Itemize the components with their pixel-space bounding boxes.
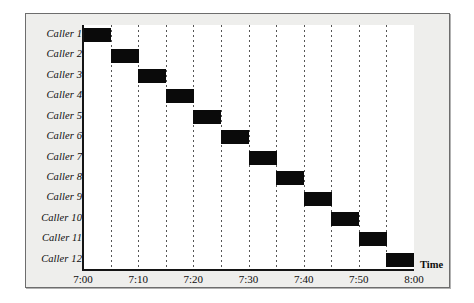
gantt-bar xyxy=(304,192,332,206)
y-axis-label: Caller 4 xyxy=(26,89,82,101)
x-tick-label: 7:30 xyxy=(239,273,259,286)
y-axis-label: Caller 1 xyxy=(26,28,82,40)
y-axis-label: Caller 10 xyxy=(26,212,82,224)
gantt-bar xyxy=(221,130,249,144)
x-tick-label: 7:10 xyxy=(128,273,148,286)
gantt-bar xyxy=(331,212,359,226)
gantt-bar xyxy=(166,89,194,103)
gridline xyxy=(221,25,222,270)
gridline xyxy=(166,25,167,270)
x-tick-label: 7:50 xyxy=(349,273,369,286)
gridline xyxy=(331,25,332,270)
chart-panel: Caller 1Caller 2Caller 3Caller 4Caller 5… xyxy=(25,13,450,288)
gridline xyxy=(249,25,250,270)
x-tick-label: 7:20 xyxy=(184,273,204,286)
y-axis-labels: Caller 1Caller 2Caller 3Caller 4Caller 5… xyxy=(26,26,82,269)
y-axis-label: Caller 3 xyxy=(26,69,82,81)
gantt-bar xyxy=(359,232,387,246)
y-axis-label: Caller 6 xyxy=(26,130,82,142)
x-axis-line xyxy=(82,269,414,271)
gridline xyxy=(276,25,277,270)
gantt-bar xyxy=(276,171,304,185)
y-axis-label: Caller 2 xyxy=(26,48,82,60)
x-tick-label: 7:40 xyxy=(294,273,314,286)
x-axis-title: Time xyxy=(420,259,443,270)
gantt-bar xyxy=(193,110,221,124)
y-axis-line xyxy=(82,25,84,270)
gantt-bar xyxy=(249,151,277,165)
y-axis-label: Caller 7 xyxy=(26,151,82,163)
gantt-bar xyxy=(83,28,111,42)
x-tick-label: 7:00 xyxy=(73,273,93,286)
y-axis-label: Caller 9 xyxy=(26,191,82,203)
gridline xyxy=(193,25,194,270)
gantt-bar xyxy=(138,69,166,83)
gridline xyxy=(304,25,305,270)
y-axis-label: Caller 5 xyxy=(26,110,82,122)
y-axis-label: Caller 12 xyxy=(26,253,82,265)
y-axis-label: Caller 11 xyxy=(26,232,82,244)
y-axis-label: Caller 8 xyxy=(26,171,82,183)
plot-area xyxy=(83,25,414,270)
x-tick-label: 8:00 xyxy=(404,273,424,286)
gantt-bar xyxy=(111,49,139,63)
gantt-bar xyxy=(386,253,414,267)
